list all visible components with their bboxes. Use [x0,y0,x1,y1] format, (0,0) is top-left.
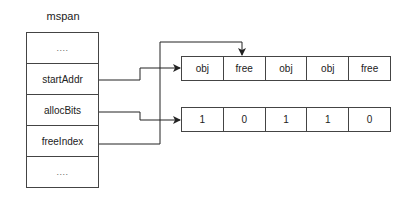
connector-arrows [0,0,408,206]
startaddr-arrow [99,68,180,80]
allocbits-arrow [99,112,180,120]
freeindex-arrow [99,42,242,144]
